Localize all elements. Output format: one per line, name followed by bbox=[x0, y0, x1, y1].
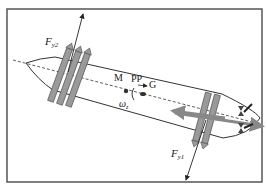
bow-thrusters bbox=[47, 42, 94, 108]
label-pp: PP bbox=[131, 73, 143, 84]
yaw-rate-arc bbox=[132, 88, 134, 100]
label-fy2: Fy2 bbox=[44, 35, 59, 49]
point-m-marker bbox=[124, 89, 128, 93]
label-yaw-rate: ωz bbox=[119, 98, 129, 110]
label-m: M bbox=[114, 72, 123, 83]
label-g: G bbox=[149, 79, 156, 90]
label-fy1: Fy1 bbox=[170, 147, 184, 161]
pp-to-g-arrow bbox=[138, 85, 147, 86]
ship-force-diagram: Fy2 Fy1 M PP G ωz bbox=[0, 0, 267, 187]
point-g-marker bbox=[140, 92, 146, 96]
